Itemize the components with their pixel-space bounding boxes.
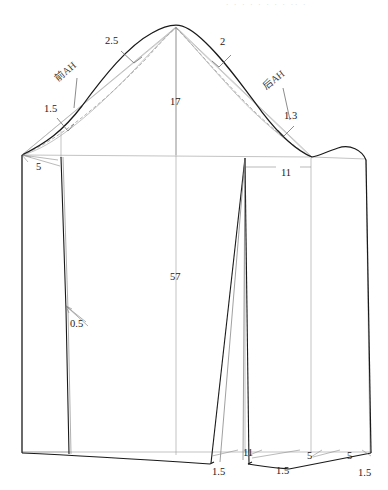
label-underarm-left: 5 — [36, 161, 41, 172]
label-body-length: 57 — [170, 271, 181, 282]
pattern-drawing: 2.5 2 1.5 1.3 17 5 11 57 0.5 11 5 5 1.5 … — [0, 0, 388, 490]
top-edge-text-fragment: · · · · · · · · ·· · — [226, 1, 307, 9]
label-cap-right-offset: 2 — [220, 36, 225, 47]
label-hem-drop-mid: 1.5 — [276, 465, 289, 476]
label-hem-seg-b: 5 — [347, 450, 352, 461]
label-hem-drop-left: 1.5 — [212, 466, 225, 477]
label-cap-height: 17 — [170, 96, 181, 107]
label-hem-dart-width: 11 — [243, 447, 253, 458]
label-side-seam-offset: 0.5 — [70, 318, 83, 329]
label-right-cap-notch: 1.3 — [284, 110, 297, 121]
label-hem-seg-a: 5 — [307, 450, 312, 461]
label-cap-left-offset: 2.5 — [105, 35, 118, 46]
label-underarm-right: 11 — [281, 167, 291, 178]
label-hem-drop-right: 1.5 — [358, 467, 371, 478]
label-left-cap-notch: 1.5 — [44, 103, 57, 114]
pattern-sheet: 2.5 2 1.5 1.3 17 5 11 57 0.5 11 5 5 1.5 … — [0, 0, 388, 490]
